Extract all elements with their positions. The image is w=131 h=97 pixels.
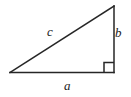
vertical-leg-label-b: b <box>115 26 122 39</box>
hypotenuse-label-c: c <box>47 25 53 38</box>
right-triangle-figure: c b a <box>0 0 131 97</box>
horizontal-leg-label-a: a <box>64 79 71 92</box>
